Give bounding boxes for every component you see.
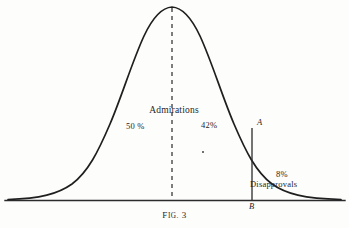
figure-3-normal-curve: Admirations 50 % 42% A B 8% Disapprovals… [0, 0, 349, 228]
label-right-percent: 8% [276, 170, 288, 179]
label-admirations: Admirations [0, 106, 349, 116]
figure-caption: FIG. 3 [0, 210, 349, 220]
label-point-a: A [257, 118, 262, 127]
normal-curve-path [8, 7, 341, 200]
scan-speck-artifact [202, 151, 204, 153]
label-mid-percent: 42% [201, 121, 217, 130]
figure-caption-smallcaps: IG. [168, 212, 179, 220]
label-disapprovals: Disapprovals [250, 180, 297, 189]
figure-caption-number: 3 [182, 210, 187, 220]
label-left-percent: 50 % [126, 122, 145, 131]
